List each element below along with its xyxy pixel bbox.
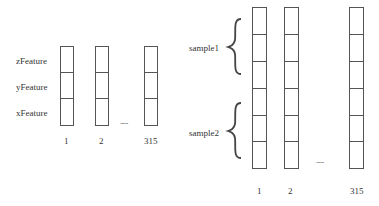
- ellipsis: ......: [316, 155, 324, 165]
- feature-column-1: [60, 46, 74, 126]
- row-label-z: zFeature: [16, 56, 47, 66]
- row-label-x: xFeature: [16, 108, 48, 118]
- row-label-y: yFeature: [16, 82, 48, 92]
- column-label-2: 2: [99, 136, 104, 146]
- brace-icon: [227, 102, 247, 162]
- feature-column-315: [144, 46, 158, 126]
- sample-column-2: [284, 7, 299, 169]
- column-label-1: 1: [257, 186, 262, 196]
- column-label-1: 1: [64, 136, 69, 146]
- column-label-2: 2: [288, 186, 293, 196]
- column-label-315: 315: [144, 136, 158, 146]
- group-label-sample2: sample2: [189, 128, 219, 138]
- column-label-315: 315: [350, 186, 364, 196]
- sample-column-315: [349, 7, 364, 169]
- feature-column-2: [95, 46, 109, 126]
- ellipsis: ......: [120, 116, 128, 126]
- group-label-sample1: sample1: [189, 43, 219, 53]
- brace-icon: [227, 18, 247, 78]
- sample-column-1: [252, 7, 267, 169]
